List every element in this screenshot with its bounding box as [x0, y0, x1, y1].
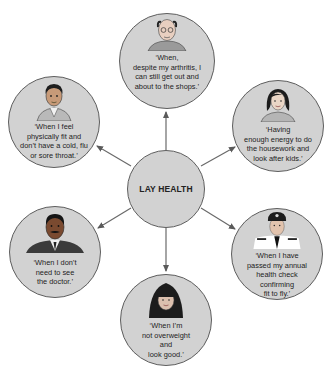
node-top-left: ‘When I feel physically fit and don’t ha…	[8, 76, 100, 168]
quote-top-right: ‘Having enough energy to do the housewor…	[244, 125, 312, 163]
young-man-portrait-icon	[35, 81, 73, 121]
node-bottom-left: ‘When I don’t need to see the doctor.’	[9, 206, 101, 298]
quote-bottom-left: ‘When I don’t need to see the doctor.’	[33, 258, 76, 287]
arrow-to-bottom-left	[98, 208, 131, 228]
quote-bottom: ‘When I’m not overweight and look good.’	[142, 321, 190, 359]
node-top: ‘When, despite my arthritis, I can still…	[119, 13, 215, 109]
woman-portrait-icon	[258, 86, 298, 122]
center-label: LAY HEALTH	[139, 184, 192, 194]
young-woman-portrait-icon	[147, 280, 185, 318]
node-bottom-right: ‘When I have passed my annual health che…	[231, 208, 323, 300]
quote-top: ‘When, despite my arthritis, I can still…	[133, 53, 201, 91]
man-moustache-portrait-icon	[25, 211, 85, 253]
arrow-to-bottom-right	[201, 208, 235, 229]
quote-top-left: ‘When I feel physically fit and don’t ha…	[20, 122, 88, 160]
arrow-to-top-left	[97, 146, 131, 166]
quote-bottom-right: ‘When I have passed my annual health che…	[247, 251, 307, 299]
arrow-to-top-right	[201, 147, 235, 166]
node-bottom: ‘When I’m not overweight and look good.’	[120, 274, 212, 366]
pilot-portrait-icon	[250, 211, 304, 249]
elderly-man-portrait-icon	[146, 17, 188, 51]
center-node: LAY HEALTH	[127, 150, 205, 228]
node-top-right: ‘Having enough energy to do the housewor…	[232, 80, 324, 172]
